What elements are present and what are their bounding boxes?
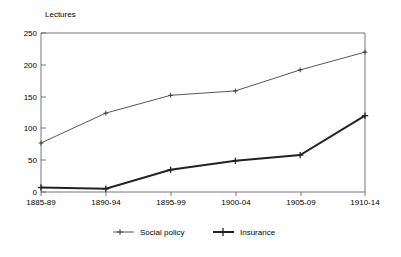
series-path-insurance xyxy=(41,116,365,189)
chart-legend: Social policy Insurance xyxy=(113,228,276,237)
legend-label-social-policy: Social policy xyxy=(140,228,184,237)
x-tick-label-1885-89: 1885-89 xyxy=(26,198,56,207)
data-point-insurance-1 xyxy=(103,186,109,192)
x-tick-label-1895-99: 1895-99 xyxy=(156,198,186,207)
line-chart-figure: Lectures 250 200 150 100 50 0 1885-89 18… xyxy=(0,0,401,257)
legend-entry-insurance: Insurance xyxy=(213,228,276,237)
x-tick-label-1900-04: 1900-04 xyxy=(221,198,251,207)
y-tick-label-150: 150 xyxy=(24,93,38,102)
y-tick-label-200: 200 xyxy=(24,61,38,70)
x-tick-label-1905-09: 1905-09 xyxy=(286,198,316,207)
y-tick-label-100: 100 xyxy=(24,124,38,133)
data-point-social-policy-3 xyxy=(233,88,238,93)
legend-entry-social-policy: Social policy xyxy=(113,228,184,237)
y-axis-ticks: 250 200 150 100 50 0 xyxy=(24,29,46,197)
plot-frame xyxy=(41,33,365,192)
x-axis-ticks: 1885-89 1890-94 1895-99 1900-04 1905-09 … xyxy=(26,192,380,207)
y-tick-label-50: 50 xyxy=(28,156,37,165)
data-point-insurance-0 xyxy=(38,184,44,190)
data-point-insurance-3 xyxy=(232,158,238,164)
series-path-social-policy xyxy=(41,52,365,143)
data-point-insurance-2 xyxy=(167,167,173,173)
data-point-social-policy-2 xyxy=(168,93,173,98)
series-insurance xyxy=(38,112,368,192)
data-point-social-policy-1 xyxy=(103,111,108,116)
x-tick-label-1910-14: 1910-14 xyxy=(350,198,380,207)
plot-border xyxy=(41,33,365,192)
data-point-social-policy-5 xyxy=(363,50,368,55)
legend-label-insurance: Insurance xyxy=(240,228,276,237)
data-point-social-policy-0 xyxy=(39,141,44,146)
y-tick-label-250: 250 xyxy=(24,29,38,38)
y-axis-title: Lectures xyxy=(45,10,76,19)
y-tick-label-0: 0 xyxy=(33,188,38,197)
series-social-policy xyxy=(39,50,368,146)
x-tick-label-1890-94: 1890-94 xyxy=(91,198,121,207)
chart-canvas: Lectures 250 200 150 100 50 0 1885-89 18… xyxy=(0,0,401,257)
data-point-social-policy-4 xyxy=(298,67,303,72)
